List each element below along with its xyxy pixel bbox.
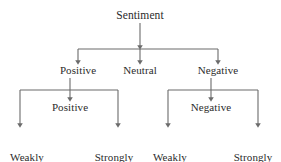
node-strongly-positive: Strongly Positive	[95, 128, 134, 162]
sentiment-tree-diagram: Sentiment Positive Neutral Negative Posi…	[0, 0, 281, 162]
node-neutral: Neutral	[123, 65, 157, 77]
node-strongly-positive-line1: Strongly	[95, 152, 134, 162]
node-negative: Negative	[198, 65, 239, 77]
node-positive-mid: Positive	[52, 102, 88, 114]
node-weakly-negative-line1: Weakly	[150, 152, 191, 162]
node-weakly-positive: Weakly Positive	[9, 128, 45, 162]
node-negative-mid: Negative	[191, 102, 232, 114]
node-weakly-negative: Weakly Negative	[150, 128, 191, 162]
node-positive: Positive	[60, 65, 96, 77]
node-weakly-positive-line1: Weakly	[9, 152, 45, 162]
node-strongly-negative-line1: Strongly	[233, 152, 274, 162]
node-strongly-negative: Strongly Negative	[233, 128, 274, 162]
node-sentiment: Sentiment	[116, 9, 164, 21]
